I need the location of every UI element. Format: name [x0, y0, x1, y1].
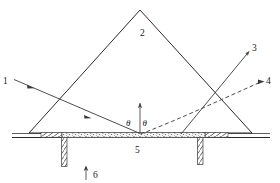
- diagram-canvas: 1 2 3 4 5 6 θ θ: [0, 0, 280, 183]
- label-theta-left: θ: [126, 118, 131, 128]
- label-input-arrow: 6: [93, 170, 98, 180]
- label-prism: 2: [140, 28, 145, 38]
- outgoing-ray-solid: [181, 52, 249, 135]
- optics-diagram-figure: 1 2 3 4 5 6 θ θ: [0, 0, 280, 183]
- label-ray-four: 4: [266, 76, 271, 86]
- interface-layer: [41, 132, 228, 137]
- label-interface-layer: 5: [135, 145, 140, 155]
- label-incident-ray: 1: [3, 76, 8, 86]
- input-arrow: [84, 166, 89, 181]
- incident-ray: [14, 80, 139, 134]
- label-ray-three: 3: [252, 43, 257, 53]
- label-theta-right: θ: [143, 118, 148, 128]
- right-channel: [198, 138, 204, 165]
- left-channel: [62, 138, 68, 167]
